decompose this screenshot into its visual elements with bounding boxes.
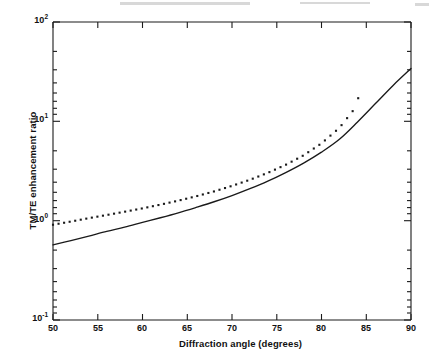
dotted-curve-marker — [146, 206, 148, 208]
dotted-curve-marker — [107, 214, 109, 216]
x-tick-label-90: 90 — [399, 323, 423, 333]
dotted-curve-marker — [252, 178, 254, 180]
dotted-curve-marker — [313, 147, 315, 149]
dotted-curve-marker — [58, 223, 60, 225]
x-tick-label-75: 75 — [265, 323, 289, 333]
dotted-curve-marker — [180, 199, 182, 201]
dotted-curve-marker — [291, 161, 293, 163]
x-tick-label-60: 60 — [130, 323, 154, 333]
dotted-curve-marker — [85, 218, 87, 220]
dotted-curve — [52, 97, 359, 226]
dotted-curve-marker — [302, 155, 304, 157]
x-tick-label-70: 70 — [220, 323, 244, 333]
dotted-curve-marker — [157, 204, 159, 206]
dotted-curve-marker — [63, 222, 65, 224]
chart-figure: 102 101 100 10-1 50 55 60 65 70 75 80 85… — [0, 0, 433, 360]
x-axis-ticks — [53, 22, 411, 320]
dotted-curve-marker — [152, 205, 154, 207]
dotted-curve-marker — [207, 192, 209, 194]
x-tick-label-55: 55 — [86, 323, 110, 333]
solid-curve — [53, 69, 411, 245]
y-tick-label-100: 102 — [6, 15, 48, 25]
dotted-curve-marker — [124, 211, 126, 213]
dotted-curve-marker — [318, 144, 320, 146]
dotted-curve-marker — [224, 187, 226, 189]
dotted-curve-marker — [96, 216, 98, 218]
y-axis-label: TM/TE enhancement ratio — [27, 71, 38, 271]
dotted-curve-marker — [163, 203, 165, 205]
dotted-curve-marker — [352, 110, 354, 112]
dotted-curve-marker — [324, 139, 326, 141]
dotted-curve-marker — [113, 213, 115, 215]
dotted-curve-marker — [141, 207, 143, 209]
dotted-curve-marker — [102, 215, 104, 217]
dotted-curve-marker — [213, 190, 215, 192]
dotted-curve-marker — [263, 173, 265, 175]
x-tick-label-65: 65 — [175, 323, 199, 333]
dotted-curve-marker — [279, 166, 281, 168]
dotted-curve-marker — [52, 224, 54, 226]
y-tick-label-0.1: 10-1 — [6, 313, 48, 323]
dotted-curve-marker — [80, 219, 82, 221]
x-tick-label-85: 85 — [354, 323, 378, 333]
dotted-curve-marker — [341, 124, 343, 126]
dotted-curve-marker — [357, 97, 359, 99]
dotted-curve-marker — [202, 193, 204, 195]
y-axis-ticks — [53, 22, 411, 320]
dotted-curve-marker — [91, 217, 93, 219]
dotted-curve-marker — [335, 130, 337, 132]
x-axis-label: Diffraction angle (degrees) — [0, 338, 433, 349]
x-tick-label-80: 80 — [309, 323, 333, 333]
dotted-curve-marker — [69, 221, 71, 223]
dotted-curve-marker — [274, 169, 276, 171]
dotted-curve-marker — [346, 117, 348, 119]
plot-canvas — [0, 0, 433, 360]
dotted-curve-marker — [185, 198, 187, 200]
dotted-curve-marker — [257, 175, 259, 177]
dotted-curve-marker — [246, 180, 248, 182]
dotted-curve-marker — [235, 183, 237, 185]
dotted-curve-marker — [296, 158, 298, 160]
dotted-curve-marker — [268, 171, 270, 173]
dotted-curve-marker — [307, 151, 309, 153]
dotted-curve-marker — [191, 196, 193, 198]
dotted-curve-marker — [329, 135, 331, 137]
dotted-curve-marker — [285, 164, 287, 166]
dotted-curve-marker — [119, 212, 121, 214]
dotted-curve-marker — [135, 208, 137, 210]
dotted-curve-marker — [74, 220, 76, 222]
dotted-curve-marker — [168, 202, 170, 204]
dotted-curve-marker — [218, 189, 220, 191]
dotted-curve-marker — [241, 182, 243, 184]
axis-frame — [53, 22, 411, 320]
dotted-curve-marker — [230, 185, 232, 187]
dotted-curve-marker — [130, 210, 132, 212]
x-tick-label-50: 50 — [41, 323, 65, 333]
dotted-curve-marker — [174, 200, 176, 202]
dotted-curve-marker — [196, 195, 198, 197]
